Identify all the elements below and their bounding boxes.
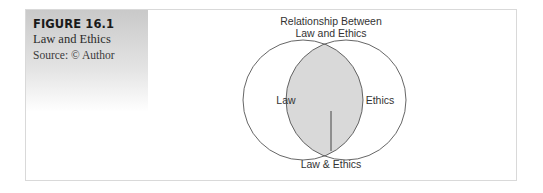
diagram-title-line2: Law and Ethics (295, 27, 366, 39)
ethics-label: Ethics (366, 94, 395, 106)
venn-diagram: Relationship Between Law and Ethics Law … (0, 0, 543, 193)
law-label: Law (276, 94, 296, 106)
diagram-title-line1: Relationship Between (280, 15, 382, 27)
intersection-label: Law & Ethics (301, 158, 362, 170)
